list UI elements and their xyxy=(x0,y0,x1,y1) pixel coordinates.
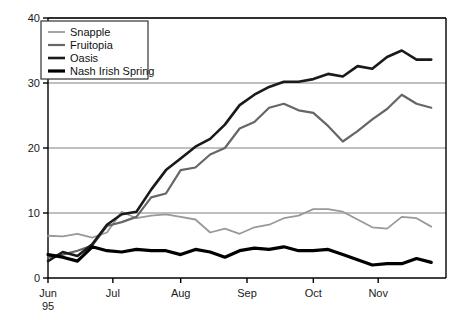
x-tick-label: Jul xyxy=(106,287,120,299)
legend-label-snapple: Snapple xyxy=(70,26,110,38)
y-tick-label: 40 xyxy=(28,12,40,24)
y-tick-label: 20 xyxy=(28,142,40,154)
x-tick-label: Aug xyxy=(171,287,191,299)
chart-canvas: 010203040 Jun95JulAugSepOctNov SnappleFr… xyxy=(0,0,470,320)
x-axis-tick-labels: Jun95JulAugSepOctNov xyxy=(39,278,388,312)
x-tick-label: Sep xyxy=(237,287,257,299)
y-tick-label: 30 xyxy=(28,77,40,89)
x-tick-label: Oct xyxy=(305,287,322,299)
legend-label-nash-irish-spring: Nash Irish Spring xyxy=(70,65,154,77)
y-tick-label: 10 xyxy=(28,207,40,219)
legend-label-fruitopia: Fruitopia xyxy=(70,39,114,51)
legend-label-oasis: Oasis xyxy=(70,52,99,64)
chart-legend: SnappleFruitopiaOasisNash Irish Spring xyxy=(41,21,154,79)
x-tick-sublabel-year: 95 xyxy=(42,300,54,312)
series-line-nash-irish-spring xyxy=(48,247,431,265)
x-tick-label: Nov xyxy=(368,287,388,299)
line-chart: 010203040 Jun95JulAugSepOctNov SnappleFr… xyxy=(0,0,470,320)
y-tick-label: 0 xyxy=(34,272,40,284)
x-tick-label: Jun xyxy=(39,287,57,299)
